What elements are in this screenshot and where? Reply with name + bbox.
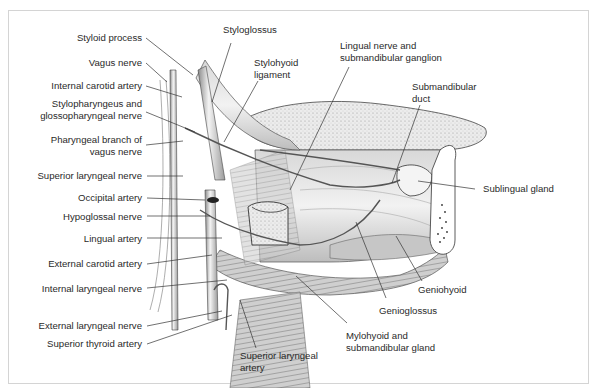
label-line: Stylopharyngeus and [40,98,142,110]
label-mylohyoid: Mylohyoid and submandibular gland [346,330,435,354]
label-line: glossopharyngeal nerve [40,110,142,122]
label-line: Superior laryngeal [240,350,318,362]
label-stylohyoid-ligament: Stylohyoid ligament [254,57,298,81]
label-styloglossus: Styloglossus [223,24,277,36]
label-line: duct [412,93,477,105]
label-hypoglossal-nerve: Hypoglossal nerve [63,211,142,223]
label-internal-laryngeal-nerve: Internal laryngeal nerve [42,283,142,295]
label-lingual-nerve: Lingual nerve and submandibular ganglion [340,40,442,64]
label-superior-laryngeal-nerve: Superior laryngeal nerve [37,170,142,182]
label-stylopharyngeus: Stylopharyngeus and glossopharyngeal ner… [40,98,142,122]
label-superior-thyroid-artery: Superior thyroid artery [47,338,142,350]
label-line: submandibular ganglion [340,52,442,64]
label-occipital-artery: Occipital artery [78,192,142,204]
label-line: Stylohyoid [254,57,298,69]
label-geniohyoid: Geniohyoid [418,284,467,296]
label-internal-carotid-artery: Internal carotid artery [51,80,142,92]
label-line: Mylohyoid and [346,330,435,342]
label-superior-laryngeal-artery: Superior laryngeal artery [240,350,318,374]
label-line: Submandibular [412,81,477,93]
label-line: artery [240,362,318,374]
label-vagus-nerve: Vagus nerve [89,57,142,69]
label-external-carotid-artery: External carotid artery [48,258,142,270]
label-pharyngeal-branch: Pharyngeal branch of vagus nerve [51,134,142,158]
label-submandibular-duct: Submandibular duct [412,81,477,105]
label-line: ligament [254,69,298,81]
internal-carotid [170,70,178,330]
label-lingual-artery: Lingual artery [84,233,142,245]
label-external-laryngeal-nerve: External laryngeal nerve [39,320,142,332]
label-styloid-process: Styloid process [77,32,142,44]
label-line: submandibular gland [346,342,435,354]
label-line: vagus nerve [51,146,142,158]
label-line: Pharyngeal branch of [51,134,142,146]
label-sublingual-gland: Sublingual gland [483,183,554,195]
label-genioglossus: Genioglossus [379,305,437,317]
label-line: Lingual nerve and [340,40,442,52]
